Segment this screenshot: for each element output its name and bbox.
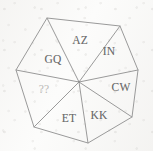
sector-in-label: IN [103, 46, 116, 58]
spoke-to-bottom [79, 82, 88, 143]
sector-gq-label: GQ [44, 54, 61, 66]
heptagon-diagram [0, 0, 153, 151]
sector-cw-label: CW [112, 82, 131, 94]
sector-et-label: ET [62, 113, 76, 125]
center-hub-point [78, 81, 80, 83]
spoke-to-right [79, 70, 138, 82]
sector-kk-label: KK [90, 110, 107, 122]
diagram-canvas: AZINCWKKET??GQ [0, 0, 153, 151]
sector-qq-label: ?? [39, 84, 50, 96]
spoke-to-top-left [47, 18, 79, 82]
spoke-to-left [16, 70, 79, 82]
sector-az-label: AZ [72, 35, 88, 47]
